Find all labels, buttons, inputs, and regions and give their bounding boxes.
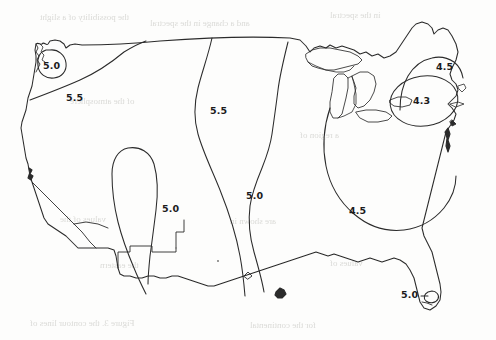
contour-label-5-0-great-basin: 5.0 (162, 203, 179, 214)
contour-label-5-0-central: 5.0 (246, 190, 263, 201)
contour-map-figure: the possibility of a slight and a change… (0, 0, 496, 340)
contour-label-4-5-newengland: 4.5 (436, 61, 453, 72)
contour-label-4-3-midatlantic: 4.3 (413, 95, 430, 106)
contour-5-0-south-florida (424, 291, 438, 303)
contour-label-5-0-northwest: 5.0 (43, 60, 60, 71)
us-national-outline (21, 22, 458, 310)
state-border-baja-line (74, 222, 108, 228)
contour-label-5-0-florida: 5.0 (401, 289, 418, 300)
contour-5-0-central (249, 42, 288, 292)
state-border-california-nevada (32, 182, 74, 224)
us-contour-map (0, 0, 496, 340)
contour-5-5-plains (195, 38, 245, 296)
michigan-lower-peninsula (338, 76, 356, 118)
lake-erie (356, 110, 392, 122)
cape-cod-detail (458, 84, 466, 92)
lake-michigan (330, 74, 348, 118)
chesapeake-bay-detail (445, 128, 450, 152)
state-border-california-arizona (74, 224, 96, 248)
contour-label-4-5-southeast: 4.5 (349, 205, 366, 216)
contour-label-5-5-rockies: 5.5 (66, 92, 83, 103)
contour-label-5-5-plains: 5.5 (210, 105, 227, 116)
mississippi-delta-detail (275, 288, 286, 298)
state-border-texas-panhandle (176, 220, 184, 248)
scan-speck (217, 260, 219, 262)
